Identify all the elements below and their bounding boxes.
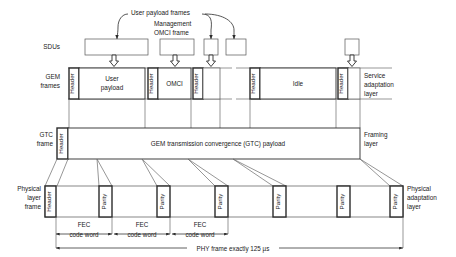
leader-user-payload-left <box>117 14 128 39</box>
sdu-small-1 <box>204 39 218 55</box>
gem-omci-label: OMCI <box>166 80 183 87</box>
gem-row-label-line2: frames <box>40 82 60 89</box>
figure-root: User payload frames Management OMCI fram… <box>0 0 456 257</box>
service-adaptation-label-line3: layer <box>364 90 379 98</box>
phy-map-4b <box>233 159 286 186</box>
phy-row-label-line3: frame <box>25 203 42 210</box>
sdu-arrow-2 <box>171 55 180 67</box>
phy-map-5b <box>360 159 403 186</box>
phy-map-1b <box>97 159 112 186</box>
pon-frame-structure-diagram: User payload frames Management OMCI fram… <box>0 0 456 257</box>
phy-map-0 <box>57 159 68 186</box>
annotation-management-line1: Management <box>154 20 192 28</box>
sdu-arrow-3 <box>207 55 216 67</box>
gem-header-5-label: Header <box>337 73 344 93</box>
gem-to-gtc-guides <box>69 99 360 128</box>
sdu-user-payload-large <box>85 39 148 55</box>
gem-header-1-label: Header <box>68 73 75 93</box>
phy-map-1a <box>97 159 99 186</box>
phy-frame-dim-label: PHY frame exactly 125 µs <box>197 245 270 253</box>
phy-parity-3-label: Parity <box>216 193 223 210</box>
gem-header-3-label: Header <box>192 73 199 93</box>
dimension-extensions <box>56 217 403 248</box>
gem-header-2-label: Header <box>147 73 154 93</box>
phy-parity-2-label: Parity <box>158 193 165 210</box>
sdu-small-2 <box>226 39 246 55</box>
service-adaptation-label-line2: adaptation <box>364 81 394 89</box>
phy-header-label: Header <box>45 191 52 211</box>
physical-adaptation-label-line2: adaptation <box>407 194 437 202</box>
phy-map-header <box>45 159 57 186</box>
gem-user-payload-label-line2: payload <box>101 84 124 92</box>
sdu-arrow-4 <box>348 55 357 67</box>
fec-label-2-line1: FEC <box>136 221 149 228</box>
phy-map-3a <box>188 159 215 186</box>
phy-map-2a <box>142 159 157 186</box>
physical-adaptation-label-line3: layer <box>407 203 422 211</box>
annotation-user-payload-frames: User payload frames <box>131 9 190 17</box>
phy-parity-4-label: Parity <box>274 193 281 210</box>
sdu-arrow-1 <box>110 55 119 67</box>
gtc-row-label-line1: GTC <box>40 131 54 138</box>
gtc-to-phy-diagonals <box>45 159 403 186</box>
gtc-row-label-line2: frame <box>37 140 54 147</box>
gtc-payload-label: GEM transmission convergence (GTC) paylo… <box>151 140 286 148</box>
physical-adaptation-label-line1: Physical <box>407 185 431 193</box>
fec-label-3-line1: FEC <box>194 221 207 228</box>
phy-map-2b <box>142 159 170 186</box>
phy-map-3b <box>188 159 228 186</box>
phy-parity-6-label: Parity <box>391 193 398 210</box>
gtc-header-label: Header <box>57 133 64 153</box>
phy-parity-5-label: Parity <box>338 193 345 210</box>
gem-header-4-label: Header <box>249 73 256 93</box>
sdu-to-gem-arrows <box>110 55 357 67</box>
phy-map-5a <box>360 159 390 186</box>
sdu-row-label: SDUs <box>43 43 60 50</box>
phy-row-label-line1: Physical <box>17 185 41 193</box>
phy-map-4a <box>233 159 273 186</box>
framing-layer-label-line2: layer <box>364 140 379 148</box>
fec-label-1-line2: code word <box>69 231 99 238</box>
gem-idle-label: Idle <box>293 80 304 87</box>
framing-layer-label-line1: Framing <box>364 131 388 139</box>
gem-partial-payload-right <box>348 68 360 99</box>
gem-row-label-line1: GEM <box>45 73 60 80</box>
sdu-right <box>345 39 359 55</box>
annotation-management-line2: OMCI frame <box>154 29 189 36</box>
fec-label-2-line2: code word <box>127 231 157 238</box>
fec-label-1-line1: FEC <box>78 221 91 228</box>
leader-user-payload-right <box>205 14 234 39</box>
service-adaptation-label-line1: Service <box>364 72 386 79</box>
phy-row-label-line2: layer <box>27 194 42 202</box>
phy-parity-1-label: Parity <box>100 193 107 210</box>
gem-user-payload-label-line1: User <box>105 75 119 82</box>
fec-label-3-line2: code word <box>185 231 215 238</box>
leader-user-payload-mid <box>202 14 211 39</box>
sdu-omci <box>160 39 194 55</box>
gem-partial-payload-left <box>203 68 220 99</box>
